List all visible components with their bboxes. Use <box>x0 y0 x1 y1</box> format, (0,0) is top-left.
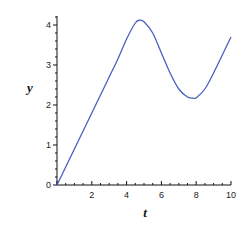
x-tick-label: 2 <box>89 190 94 200</box>
y-axis: 01234 <box>46 16 57 190</box>
x-axis: 246810 <box>57 181 236 200</box>
x-axis-label: t <box>143 205 147 220</box>
x-tick-label: 4 <box>124 190 129 200</box>
y-tick-label: 3 <box>46 60 51 70</box>
y-tick-label: 4 <box>46 20 51 30</box>
x-tick-label: 8 <box>194 190 199 200</box>
x-tick-label: 10 <box>226 190 236 200</box>
y-tick-label: 0 <box>46 180 51 190</box>
y-axis-label: y <box>25 80 33 95</box>
data-line <box>57 20 231 185</box>
x-tick-label: 6 <box>159 190 164 200</box>
chart: 01234 246810 t y <box>0 0 247 229</box>
y-tick-label: 2 <box>46 100 51 110</box>
y-tick-label: 1 <box>46 140 51 150</box>
